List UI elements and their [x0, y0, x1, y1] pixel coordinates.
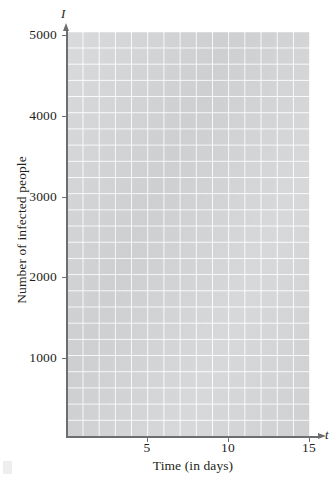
y-tick-mark — [62, 35, 67, 36]
y-tick-mark — [62, 277, 67, 278]
y-tick-label-4000: 4000 — [29, 109, 57, 123]
y-tick-label-3000: 3000 — [29, 190, 57, 204]
x-axis-variable-symbol: t — [325, 428, 329, 441]
x-axis-title: Time (in days) — [153, 459, 233, 473]
plot-grid-area[interactable] — [67, 32, 310, 437]
y-tick-label-5000: 5000 — [29, 28, 57, 42]
y-axis-arrow-icon — [63, 23, 69, 31]
x-tick-label-10: 10 — [208, 441, 248, 455]
y-tick-mark — [62, 197, 67, 198]
infection-graph-figure: 5000 4000 3000 2000 1000 5 10 15 I t Num… — [0, 0, 336, 485]
y-tick-label-2000: 2000 — [29, 270, 57, 284]
y-tick-mark — [62, 116, 67, 117]
y-axis-line — [66, 30, 68, 438]
x-tick-label-15: 15 — [289, 441, 329, 455]
y-tick-mark — [62, 358, 67, 359]
paper-texture-overlay — [67, 32, 310, 437]
x-axis-line — [66, 436, 320, 438]
y-tick-label-1000: 1000 — [29, 351, 57, 365]
scan-artifact — [3, 461, 12, 474]
x-tick-label-5: 5 — [127, 441, 167, 455]
y-axis-title: Number of infected people — [15, 156, 29, 304]
y-axis-variable-symbol: I — [61, 7, 65, 20]
